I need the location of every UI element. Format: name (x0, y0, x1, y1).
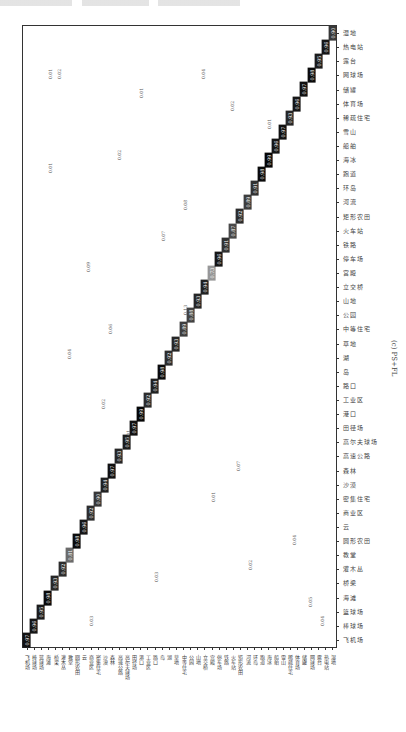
x-tick (311, 647, 312, 650)
diagonal-cell: 0.73 (208, 266, 216, 281)
diagonal-cell: 0.94 (201, 280, 209, 295)
off-diagonal-value: 0.01 (48, 69, 53, 79)
row-label: 体育场 (343, 99, 364, 108)
diagonal-cell: 0.93 (115, 449, 123, 464)
confusion-matrix: 0.970.960.950.980.930.920.810.980.960.92… (22, 25, 337, 648)
y-tick (336, 456, 339, 457)
off-diagonal-value: 0.04 (292, 535, 297, 545)
y-tick (336, 386, 339, 387)
header-smudge (0, 0, 240, 6)
diagonal-cell: 0.98 (158, 365, 166, 380)
y-tick (336, 202, 339, 203)
diagonal-cell: 0.90 (94, 492, 102, 507)
row-label: 热电站 (343, 42, 364, 51)
off-diagonal-value: 0.01 (48, 163, 53, 173)
column-label: 河流 (243, 655, 250, 665)
column-label: 灌木丛 (58, 655, 65, 670)
x-tick (48, 647, 49, 650)
x-tick (98, 647, 99, 650)
row-label: 海冰 (343, 155, 357, 164)
x-tick (41, 647, 42, 650)
diagonal-cell: 0.96 (30, 619, 38, 634)
column-label: 圆形农田 (72, 655, 79, 675)
off-diagonal-value: 0.02 (248, 560, 253, 570)
column-label: 海冰 (264, 655, 271, 665)
row-label: 篮球场 (343, 607, 364, 616)
diagonal-cell: 0.91 (251, 181, 259, 196)
column-label: 海滩 (44, 655, 51, 665)
column-label: 停车场 (215, 655, 222, 670)
column-label: 路口 (151, 655, 158, 665)
diagonal-cell: 0.87 (229, 224, 237, 239)
row-label: 湖 (343, 353, 350, 362)
y-tick (336, 640, 339, 641)
y-tick (336, 358, 339, 359)
x-tick (261, 647, 262, 650)
column-label: 宫殿 (208, 655, 215, 665)
off-diagonal-value: 0.03 (154, 572, 159, 582)
diagonal-cell: 0.99 (265, 153, 273, 168)
y-tick (336, 217, 339, 218)
y-tick (336, 33, 339, 34)
y-tick (336, 132, 339, 133)
x-tick (247, 647, 248, 650)
y-tick (336, 541, 339, 542)
column-label: 湿地 (328, 655, 335, 665)
diagonal-cell: 0.96 (215, 252, 223, 267)
x-tick (62, 647, 63, 650)
diagonal-cell: 0.81 (66, 548, 74, 563)
column-label: 雪山 (279, 655, 286, 665)
off-diagonal-value: 0.02 (57, 69, 62, 79)
diagonal-cell: 0.97 (279, 125, 287, 140)
off-diagonal-value: 0.09 (86, 262, 91, 272)
diagonal-cell: 0.96 (293, 97, 301, 112)
y-tick (336, 442, 339, 443)
x-tick (140, 647, 141, 650)
diagonal-cell: 0.96 (322, 40, 330, 55)
diagonal-cell: 0.89 (244, 195, 252, 210)
row-label: 停车场 (343, 254, 364, 263)
y-tick (336, 47, 339, 48)
column-label: 稀疏住宅 (286, 655, 293, 675)
diagonal-cell: 0.98 (258, 167, 266, 182)
row-label: 岛 (343, 367, 350, 376)
y-tick (336, 329, 339, 330)
x-tick (169, 647, 170, 650)
row-label: 工业区 (343, 395, 364, 404)
column-label: 储罐 (300, 655, 307, 665)
column-label: 立交桥 (200, 655, 207, 670)
y-tick (336, 231, 339, 232)
row-label: 山地 (343, 296, 357, 305)
x-tick (254, 647, 255, 650)
off-diagonal-value: 0.03 (89, 616, 94, 626)
column-label: 工业区 (143, 655, 150, 670)
off-diagonal-value: 0.01 (267, 119, 272, 129)
column-label: 体育场 (293, 655, 300, 670)
diagonal-cell: 0.98 (308, 68, 316, 83)
x-tick (162, 647, 163, 650)
row-label: 圆形农田 (343, 536, 371, 545)
x-tick (297, 647, 298, 650)
x-tick (76, 647, 77, 650)
column-label: 公园 (186, 655, 193, 665)
row-label: 田径场 (343, 423, 364, 432)
row-label: 森林 (343, 466, 357, 475)
x-tick (332, 647, 333, 650)
y-tick (336, 626, 339, 627)
row-label: 立交桥 (343, 282, 364, 291)
y-tick (336, 471, 339, 472)
row-label: 教堂 (343, 550, 357, 559)
x-tick (204, 647, 205, 650)
row-label: 环岛 (343, 183, 357, 192)
off-diagonal-value: 0.01 (126, 430, 131, 440)
y-tick (336, 344, 339, 345)
column-label: 环岛 (250, 655, 257, 665)
column-label: 田径场 (129, 655, 136, 670)
row-label: 火车站 (343, 226, 364, 235)
x-tick (126, 647, 127, 650)
off-diagonal-value: 0.01 (139, 88, 144, 98)
row-label: 雪山 (343, 127, 357, 136)
row-label: 港口 (343, 409, 357, 418)
column-label: 中等住宅 (179, 655, 186, 675)
diagonal-cell: 0.98 (44, 591, 52, 606)
